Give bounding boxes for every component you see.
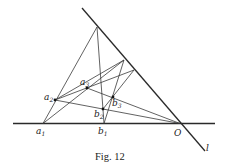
label-a2: a2	[44, 92, 53, 103]
label-a1: a1	[36, 126, 45, 137]
label-b3: b3	[112, 98, 122, 109]
point-a2	[54, 99, 57, 102]
label-b2: b2	[94, 109, 104, 120]
label-O: O	[174, 128, 182, 138]
projective-geometry-figure: a1 b1 O l a2 a3 b2 b3 Fig. 12	[0, 0, 227, 168]
point-b2	[102, 108, 105, 111]
figure-caption: Fig. 12	[95, 151, 125, 162]
line-a1-apex	[43, 27, 97, 124]
label-a3: a3	[80, 77, 89, 88]
label-l: l	[206, 143, 209, 153]
label-b1: b1	[98, 126, 108, 137]
line-a1-l	[43, 60, 124, 124]
